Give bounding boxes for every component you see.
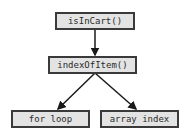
node-array-index: array index	[100, 110, 179, 128]
node-for-loop: for loop	[11, 110, 90, 128]
node-isincart: isInCart()	[55, 12, 135, 30]
edge-indexofitem-to-forloop	[58, 73, 95, 109]
edge-indexofitem-to-arrayindex	[95, 73, 136, 109]
node-indexofitem: indexOfItem()	[48, 56, 137, 74]
